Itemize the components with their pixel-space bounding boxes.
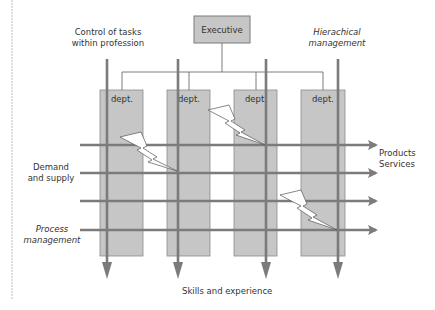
control-label-line1: Control of tasks [75,27,142,37]
skills-label: Skills and experience [182,286,272,296]
services-label: Services [379,159,415,169]
hierarchical-label-line2: management [309,38,367,48]
dept-label-1: dept. [111,94,133,104]
control-label-line2: within profession [72,38,144,48]
executive-label: Executive [201,25,242,35]
products-label: Products [379,148,416,158]
diagram-canvas: Executive dept. dept. dept. dept. [0,0,435,310]
org-connectors [122,43,323,90]
dept-label-2: dept. [178,94,200,104]
demand-label-line2: and supply [28,173,75,183]
hierarchical-label-line1: Hierachical [313,27,361,37]
process-label-line1: Process [36,224,69,234]
process-label-line2: management [24,235,82,245]
demand-label-line1: Demand [33,162,69,172]
dept-label-4: dept. [312,94,334,104]
dept-label-3: dept. [245,94,267,104]
